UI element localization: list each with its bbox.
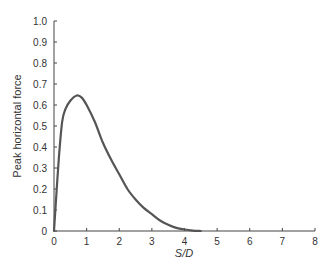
x-axis-title: S/D xyxy=(175,247,193,259)
x-tick-label: 5 xyxy=(214,236,220,247)
x-tick-label: 7 xyxy=(280,236,286,247)
axes xyxy=(54,21,315,231)
y-tick-label: 0.3 xyxy=(33,163,47,174)
x-tick-label: 1 xyxy=(84,236,90,247)
y-tick-label: 0.4 xyxy=(33,142,47,153)
x-tick-label: 0 xyxy=(51,236,57,247)
y-tick-label: 0.5 xyxy=(33,121,47,132)
chart: 00.10.20.30.40.50.60.70.80.91.0 01234567… xyxy=(0,0,329,274)
y-axis-title: Peak horizontal force xyxy=(11,74,23,177)
y-tick-label: 0.6 xyxy=(33,100,47,111)
y-tick-label: 0.8 xyxy=(33,58,47,69)
y-tick-label: 0.9 xyxy=(33,37,47,48)
y-tick-label: 0 xyxy=(41,226,47,237)
y-tick-label: 0.1 xyxy=(33,205,47,216)
y-axis-ticks: 00.10.20.30.40.50.60.70.80.91.0 xyxy=(33,16,57,237)
x-tick-label: 6 xyxy=(247,236,253,247)
y-tick-label: 1.0 xyxy=(33,16,47,27)
x-tick-label: 4 xyxy=(182,236,188,247)
x-tick-label: 8 xyxy=(312,236,318,247)
y-tick-label: 0.2 xyxy=(33,184,47,195)
y-tick-label: 0.7 xyxy=(33,79,47,90)
data-line xyxy=(54,95,201,231)
x-tick-label: 3 xyxy=(149,236,155,247)
x-tick-label: 2 xyxy=(116,236,122,247)
